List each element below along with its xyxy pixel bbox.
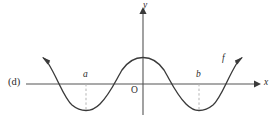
part-label: (d) — [8, 77, 20, 88]
origin-label: O — [131, 86, 138, 96]
y-axis-label: y — [143, 1, 147, 11]
axis-label-b: b — [196, 70, 201, 80]
axis-label-a: a — [83, 70, 88, 80]
curve-label-f: f — [222, 54, 225, 64]
x-axis-label: x — [264, 78, 268, 88]
x-axis-arrowhead-icon — [254, 80, 261, 87]
function-graph-figure — [0, 0, 279, 123]
y-axis — [139, 7, 146, 115]
